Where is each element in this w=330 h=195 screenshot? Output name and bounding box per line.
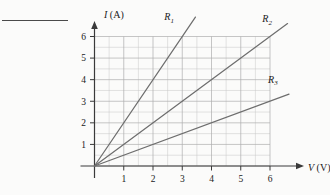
y-tick-label: 2 <box>81 118 86 128</box>
y-tick-label: 5 <box>81 53 86 63</box>
x-tick-label: 1 <box>121 174 126 184</box>
iv-characteristic-graph: 123456 123456 R1R2R3 I(A) V(V) <box>0 0 330 195</box>
y-tick-label: 4 <box>81 75 86 85</box>
x-axis-label: V(V) <box>308 162 330 174</box>
y-tick-label: 6 <box>81 32 86 42</box>
x-tick-label: 4 <box>209 174 214 184</box>
y-axis-label: I(A) <box>103 9 124 21</box>
y-tick-label: 3 <box>81 97 86 107</box>
x-tick-label: 3 <box>180 174 185 184</box>
x-tick-label: 6 <box>268 174 273 184</box>
x-tick-label: 5 <box>238 174 243 184</box>
y-tick-label: 1 <box>81 140 86 150</box>
figure-container: 123456 123456 R1R2R3 I(A) V(V) <box>0 0 330 195</box>
x-tick-label: 2 <box>151 174 156 184</box>
